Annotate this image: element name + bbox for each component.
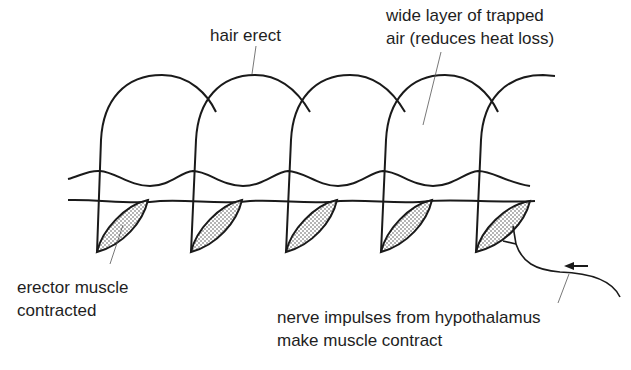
skin-upper-surface	[68, 171, 530, 186]
leader-trapped-air	[423, 52, 441, 125]
label-trapped-air: wide layer of trapped air (reduces heat …	[386, 4, 554, 50]
label-hair-erect: hair erect	[210, 24, 281, 47]
label-nerve: nerve impulses from hypothalamus make mu…	[277, 306, 541, 352]
nerve	[503, 226, 620, 297]
left-arrow-icon	[564, 262, 588, 270]
muscle-5	[476, 201, 530, 252]
muscle-2	[191, 200, 242, 252]
muscle-4	[381, 200, 432, 252]
hairs	[97, 75, 555, 252]
leader-nerve	[558, 274, 569, 303]
erector-muscles	[97, 200, 530, 252]
label-erector-muscle: erector muscle contracted	[17, 276, 128, 322]
leader-lines	[110, 46, 569, 303]
leader-hair-erect	[252, 46, 256, 74]
skin-lower-surface	[68, 200, 535, 203]
muscle-3	[286, 200, 337, 252]
